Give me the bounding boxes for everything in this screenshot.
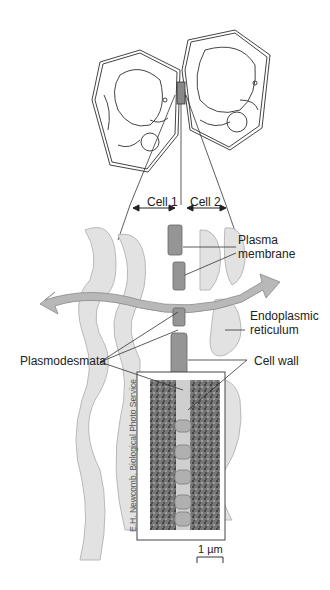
label-er-2: reticulum <box>250 324 299 337</box>
zoom-lines <box>118 95 238 240</box>
label-cell-2: Cell 2 <box>190 196 221 209</box>
scale-bar-label: 1 µm <box>198 543 223 556</box>
label-er-1: Endoplasmic <box>250 310 319 323</box>
label-cell-1: Cell 1 <box>147 196 178 209</box>
label-cell-wall: Cell wall <box>254 355 299 368</box>
micrograph <box>137 372 225 540</box>
micrograph-credit: E.H. Newcomb, Biological Photo Service <box>128 379 138 532</box>
scale-bar <box>197 557 223 563</box>
cytoplasm-flow-arrow <box>40 274 280 314</box>
label-plasma-membrane-1: Plasma <box>238 234 278 247</box>
diagram-canvas <box>0 0 330 590</box>
label-plasmodesmata: Plasmodesmata <box>20 355 106 368</box>
label-plasma-membrane-2: membrane <box>238 248 295 261</box>
cell-1-drawing <box>92 50 180 172</box>
junction-highlight <box>177 82 185 104</box>
cell-2-drawing <box>182 30 270 150</box>
